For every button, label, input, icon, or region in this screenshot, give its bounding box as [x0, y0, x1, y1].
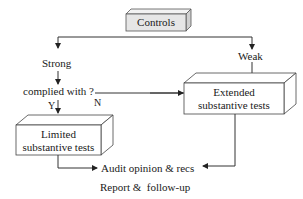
extended-label: Extended substantive tests	[184, 86, 284, 112]
strong-label: Strong	[42, 57, 71, 69]
extended-line2: substantive tests	[184, 99, 284, 112]
complied-label: complied with ?	[23, 85, 94, 97]
extended-line1: Extended	[184, 86, 284, 99]
report-label: Report & follow-up	[100, 181, 190, 193]
controls-label: Controls	[126, 16, 186, 29]
weak-label: Weak	[238, 50, 263, 62]
limited-line2: substantive tests	[16, 141, 101, 154]
limited-line1: Limited	[16, 128, 101, 141]
limited-label: Limited substantive tests	[16, 128, 101, 154]
no-label: N	[94, 97, 101, 109]
yes-label: Y	[48, 100, 55, 112]
audit-label: Audit opinion & recs	[101, 162, 194, 174]
